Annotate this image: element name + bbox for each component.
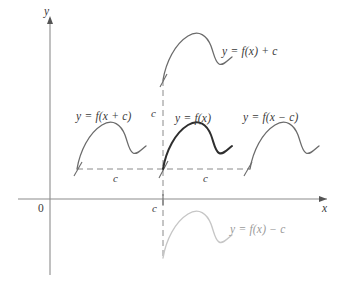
origin-label: 0 bbox=[38, 203, 44, 215]
curve-shift-down bbox=[163, 211, 232, 258]
x-axis-label: x bbox=[322, 203, 327, 215]
curve-label-shift-down: y = f(x) − c bbox=[230, 224, 286, 236]
y-axis-label: y bbox=[44, 6, 49, 18]
curve-base bbox=[163, 122, 232, 169]
curve-shift-left bbox=[77, 122, 146, 169]
axes-group bbox=[18, 18, 327, 275]
tick-label-x-axis-c: c bbox=[152, 203, 157, 214]
curve-label-shift-up: y = f(x) + c bbox=[222, 46, 278, 58]
curve-label-shift-left: y = f(x + c) bbox=[76, 111, 132, 123]
tick-label-y-axis-c: c bbox=[151, 108, 156, 119]
tick-label-horizontal-left-c: c bbox=[113, 173, 118, 184]
curve-label-base: y = f(x) bbox=[175, 113, 211, 125]
figure-canvas bbox=[0, 0, 341, 289]
transformation-figure: y x 0 c c c c y = f(x) + c y = f(x + c) … bbox=[0, 0, 341, 289]
tick-label-horizontal-right-c: c bbox=[203, 173, 208, 184]
curve-label-shift-right: y = f(x − c) bbox=[243, 112, 299, 124]
curve-shift-right bbox=[250, 122, 319, 169]
